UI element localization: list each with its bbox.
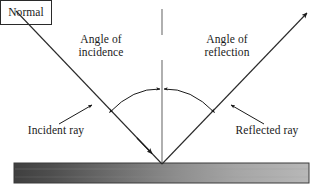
reflection-diagram: Angle of incidence Normal Angle of refle… (0, 0, 323, 193)
reflecting-surface (14, 163, 309, 183)
diagram-canvas (0, 0, 323, 193)
angle-of-incidence-arc (110, 89, 161, 113)
angle-of-reflection-arc (164, 89, 215, 113)
angle-of-reflection-label: Angle of reflection (196, 33, 258, 58)
reflected-ray-leader (231, 105, 264, 124)
angle-of-incidence-label: Angle of incidence (72, 33, 130, 58)
incident-ray-leader (59, 105, 92, 124)
incident-ray-label: Incident ray (18, 124, 94, 137)
reflected-ray-label: Reflected ray (226, 124, 308, 137)
